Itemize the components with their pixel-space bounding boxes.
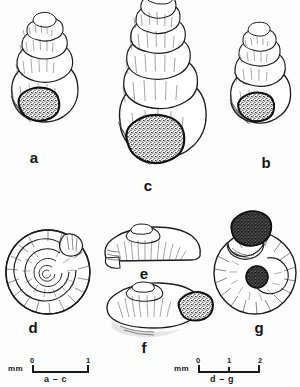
- figure-label-e: e: [136, 266, 152, 281]
- figure-label-g: g: [251, 320, 267, 335]
- scale-caption-left: a – c: [44, 374, 67, 384]
- scale-tickmark-right-0: [198, 365, 200, 373]
- scale-tick-right-0: 0: [196, 356, 200, 365]
- scale-tick-left-0: 0: [30, 356, 34, 365]
- figure-g: [214, 211, 296, 314]
- scale-unit-left: mm: [8, 364, 23, 373]
- figure-label-d: d: [25, 320, 41, 335]
- figure-f: [107, 282, 213, 337]
- figure-e: [105, 224, 200, 268]
- scale-tickmark-left-1: [87, 365, 89, 373]
- scale-bar-right: mm 0 1 2 d – g: [172, 356, 292, 384]
- scale-tick-right-1: 1: [227, 356, 231, 365]
- figure-c: [118, 0, 206, 165]
- figure-label-c: c: [140, 178, 156, 193]
- aperture-d: [60, 234, 83, 256]
- scale-caption-right: d – g: [210, 374, 234, 384]
- scale-unit-right: mm: [174, 364, 189, 373]
- scale-bar-left: mm 0 1 a – c: [6, 356, 116, 384]
- figure-d: [6, 230, 90, 314]
- figure-a: [11, 12, 78, 122]
- scale-tick-right-2: 2: [258, 356, 262, 365]
- scale-tickmark-right-2: [258, 365, 260, 373]
- scale-tick-left-1: 1: [86, 356, 90, 365]
- figure-label-f: f: [136, 340, 152, 355]
- scale-tickmark-left-0: [32, 365, 34, 373]
- figure-label-b: b: [258, 155, 274, 170]
- figure-b: [230, 22, 291, 124]
- scale-axis-left: [32, 371, 89, 373]
- scale-tickmark-right-1: [228, 367, 230, 373]
- figure-label-a: a: [26, 150, 42, 165]
